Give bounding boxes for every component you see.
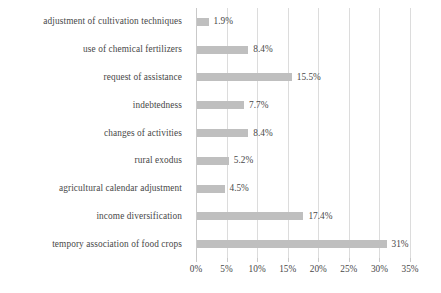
x-tick-mark	[410, 258, 411, 262]
gridline-25%	[349, 8, 350, 258]
category-label: request of assistance	[0, 72, 182, 83]
x-tick-mark	[318, 258, 319, 262]
bar	[197, 240, 387, 248]
bar-value-label: 1.9%	[214, 17, 233, 26]
bar-value-label: 8.4%	[253, 129, 272, 138]
x-tick-label: 5%	[220, 264, 232, 275]
category-label: rural exodus	[0, 155, 182, 166]
category-label: agricultural calendar adjustment	[0, 183, 182, 194]
category-label: income diversification	[0, 211, 182, 222]
bar	[197, 73, 292, 81]
plot-area: 1.9%8.4%15.5%7.7%8.4%5.2%4.5%17.4%31%	[196, 8, 410, 258]
bar	[197, 101, 244, 109]
gridline-30%	[379, 8, 380, 258]
bar-value-label: 4.5%	[230, 184, 249, 193]
x-tick-mark	[379, 258, 380, 262]
bar-value-label: 15.5%	[297, 73, 321, 82]
x-tick-mark	[196, 258, 197, 262]
category-axis: adjustment of cultivation techniquesuse …	[0, 8, 190, 258]
x-tick-label: 10%	[249, 264, 266, 275]
x-tick-mark	[227, 258, 228, 262]
x-tick-mark	[349, 258, 350, 262]
category-label: adjustment of cultivation techniques	[0, 16, 182, 27]
bar-value-label: 5.2%	[234, 156, 253, 165]
x-axis: 0%5%10%15%20%25%30%35%	[196, 258, 410, 284]
x-tick-label: 35%	[401, 264, 418, 275]
bar	[197, 18, 209, 26]
category-label: use of chemical fertilizers	[0, 44, 182, 55]
x-tick-label: 25%	[340, 264, 357, 275]
x-tick-label: 15%	[279, 264, 296, 275]
category-label: tempory association of food crops	[0, 239, 182, 250]
x-tick-label: 20%	[310, 264, 327, 275]
x-tick-label: 0%	[190, 264, 202, 275]
category-label: changes of activities	[0, 128, 182, 139]
bar	[197, 46, 248, 54]
bar-chart: adjustment of cultivation techniquesuse …	[0, 0, 441, 293]
x-tick-label: 30%	[371, 264, 388, 275]
bar-value-label: 17.4%	[308, 212, 332, 221]
gridline-35%	[410, 8, 411, 258]
bar-value-label: 7.7%	[249, 101, 268, 110]
bar-value-label: 8.4%	[253, 45, 272, 54]
bar	[197, 185, 225, 193]
bar-value-label: 31%	[392, 240, 409, 249]
gridline-15%	[288, 8, 289, 258]
bar	[197, 157, 229, 165]
x-tick-mark	[257, 258, 258, 262]
category-label: indebtedness	[0, 100, 182, 111]
bar	[197, 129, 248, 137]
x-tick-mark	[288, 258, 289, 262]
bar	[197, 212, 303, 220]
